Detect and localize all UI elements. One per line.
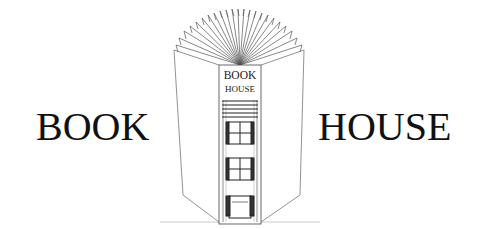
book-building-icon: BOOK HOUSE <box>0 0 482 229</box>
spine-text-book: BOOK <box>224 69 257 81</box>
spine-text-house: HOUSE <box>225 84 256 94</box>
